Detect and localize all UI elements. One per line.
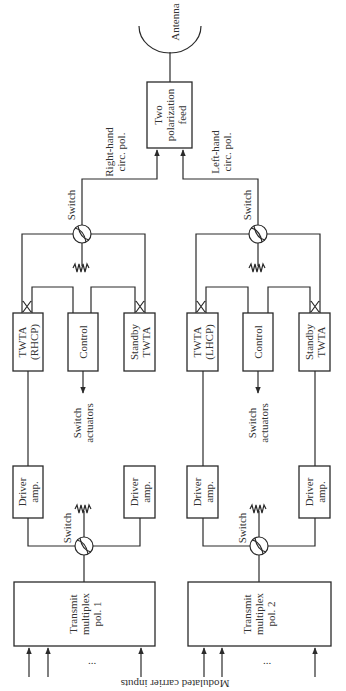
- isolator-icon: [310, 300, 320, 313]
- right-hand-pol-label: Right-hand circ. pol.: [103, 127, 127, 177]
- output-switch-label: Switch: [241, 190, 253, 221]
- standby-twta-label: Standby TWTA: [303, 324, 327, 360]
- driver-amp-standby-label: Driver amp.: [128, 478, 152, 507]
- switch-icon: [75, 537, 93, 555]
- driver-amp-standby-label: Driver amp.: [303, 478, 327, 507]
- termination-resistor-icon: [249, 264, 265, 272]
- termination-resistor-icon: [73, 264, 89, 272]
- twta-rhcp-label: TWTA (RHCP): [16, 324, 40, 360]
- isolator-icon: [196, 300, 206, 313]
- isolator-icon: [22, 300, 32, 313]
- control-label: Control: [77, 325, 89, 359]
- multiplex-pol1-label: Transmit multiplex pol. 1: [67, 593, 103, 635]
- control-label: Control: [252, 325, 264, 359]
- driver-amp-label: Driver amp.: [16, 478, 40, 507]
- inputs-ellipsis: ...: [257, 654, 277, 666]
- twta-lhcp-label: TWTA (LHCP): [191, 324, 215, 359]
- switch-actuators-label: Switch actuators: [71, 403, 95, 443]
- isolator-icon: [135, 300, 145, 313]
- switch-icon: [73, 225, 91, 243]
- diagram-canvas: Antenna Two polarization feed Right-hand…: [0, 0, 346, 691]
- multiplex-pol2-label: Transmit multiplex pol. 2: [241, 593, 277, 635]
- left-hand-pol-label: Left-hand circ. pol.: [209, 130, 233, 173]
- switch-icon: [249, 225, 267, 243]
- inputs-ellipsis: ...: [82, 654, 102, 666]
- modulated-carrier-inputs-label: Modulated carrier inputs: [121, 678, 230, 690]
- termination-resistor-icon: [75, 505, 91, 513]
- switch-icon: [250, 537, 268, 555]
- switch-actuators-label: Switch actuators: [246, 403, 270, 443]
- driver-amp-label: Driver amp.: [191, 478, 215, 507]
- standby-twta-label: Standby TWTA: [128, 324, 152, 360]
- input-switch-label: Switch: [236, 513, 248, 544]
- antenna-label: Antenna: [169, 3, 181, 40]
- output-switch-label: Switch: [65, 190, 77, 221]
- termination-resistor-icon: [250, 505, 266, 513]
- feed-label: Two polarization feed: [152, 89, 188, 142]
- input-switch-label: Switch: [61, 513, 73, 544]
